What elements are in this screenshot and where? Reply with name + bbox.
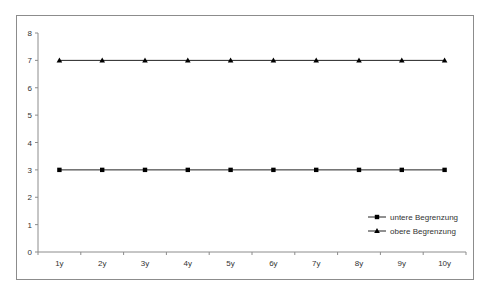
legend-item: obere Begrenzung (368, 227, 456, 236)
line-chart: 0123456781y2y3y4y5y6y7y8y9y10yuntere Beg… (0, 0, 489, 301)
square-marker-icon (186, 168, 190, 172)
y-tick-label: 8 (28, 29, 33, 38)
series-upper-bound (57, 57, 448, 62)
x-tick-label: 9y (398, 259, 406, 268)
y-tick-label: 4 (28, 139, 33, 148)
x-tick-label: 5y (226, 259, 234, 268)
square-marker-icon (357, 168, 361, 172)
y-tick-label: 3 (28, 166, 33, 175)
x-tick-label: 4y (184, 259, 192, 268)
square-marker-icon (400, 168, 404, 172)
square-marker-icon (442, 168, 446, 172)
square-marker-icon (57, 168, 61, 172)
legend-label: untere Begrenzung (390, 213, 458, 222)
x-tick-label: 10y (438, 259, 451, 268)
x-tick-label: 1y (55, 259, 63, 268)
x-tick-label: 6y (269, 259, 277, 268)
legend-label: obere Begrenzung (390, 227, 456, 236)
legend-item: untere Begrenzung (368, 213, 458, 222)
x-tick-label: 8y (355, 259, 363, 268)
legend: untere Begrenzungobere Begrenzung (368, 213, 458, 236)
square-marker-icon (143, 168, 147, 172)
square-marker-icon (271, 168, 275, 172)
y-tick-label: 6 (28, 84, 33, 93)
y-tick-label: 0 (28, 248, 33, 257)
x-tick-label: 3y (141, 259, 149, 268)
x-tick-label: 7y (312, 259, 320, 268)
square-marker-icon (375, 215, 379, 219)
y-tick-label: 1 (28, 221, 33, 230)
y-tick-label: 5 (28, 111, 33, 120)
series-lower-bound (57, 168, 447, 172)
square-marker-icon (228, 168, 232, 172)
x-tick-label: 2y (98, 259, 106, 268)
square-marker-icon (314, 168, 318, 172)
y-tick-label: 2 (28, 193, 33, 202)
y-tick-label: 7 (28, 56, 33, 65)
square-marker-icon (100, 168, 104, 172)
